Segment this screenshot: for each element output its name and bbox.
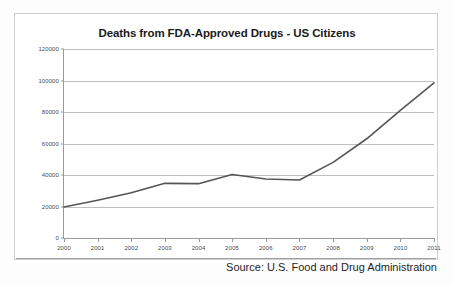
x-tick-mark — [434, 238, 435, 242]
x-tick-mark — [333, 238, 334, 242]
x-axis-line — [63, 238, 434, 239]
line-series — [64, 49, 434, 238]
x-tick-mark — [266, 238, 267, 242]
x-tick-label: 2009 — [360, 245, 374, 251]
x-tick-label: 2001 — [91, 245, 105, 251]
y-tick-label: 100000 — [38, 78, 59, 84]
figure-canvas: Deaths from FDA-Approved Drugs - US Citi… — [0, 0, 453, 285]
y-tick-label: 0 — [56, 235, 59, 241]
x-tick-label: 2003 — [158, 245, 172, 251]
x-tick-label: 2007 — [293, 245, 307, 251]
x-tick-label: 2004 — [192, 245, 206, 251]
x-tick-mark — [64, 238, 65, 242]
x-tick-label: 2006 — [259, 245, 273, 251]
plot-area: 020000400006000080000100000120000 200020… — [64, 49, 434, 238]
x-tick-label: 2005 — [225, 245, 239, 251]
x-tick-label: 2011 — [427, 245, 440, 251]
y-tick-label: 120000 — [38, 46, 59, 52]
y-tick-label: 40000 — [42, 172, 59, 178]
chart-frame: Deaths from FDA-Approved Drugs - US Citi… — [14, 13, 438, 260]
source-note: Source: U.S. Food and Drug Administratio… — [226, 261, 437, 273]
x-tick-mark — [165, 238, 166, 242]
x-tick-mark — [400, 238, 401, 242]
x-tick-label: 2008 — [326, 245, 340, 251]
y-tick-label: 20000 — [42, 204, 59, 210]
x-tick-mark — [131, 238, 132, 242]
x-tick-mark — [367, 238, 368, 242]
x-tick-mark — [299, 238, 300, 242]
series-polyline — [64, 83, 434, 207]
chart-title: Deaths from FDA-Approved Drugs - US Citi… — [15, 27, 439, 39]
x-tick-mark — [232, 238, 233, 242]
y-tick-label: 60000 — [42, 141, 59, 147]
x-tick-label: 2002 — [124, 245, 138, 251]
x-tick-label: 2000 — [57, 245, 71, 251]
x-tick-mark — [199, 238, 200, 242]
x-tick-label: 2010 — [393, 245, 407, 251]
x-tick-mark — [98, 238, 99, 242]
y-tick-label: 80000 — [42, 109, 59, 115]
source-divider — [16, 258, 436, 259]
